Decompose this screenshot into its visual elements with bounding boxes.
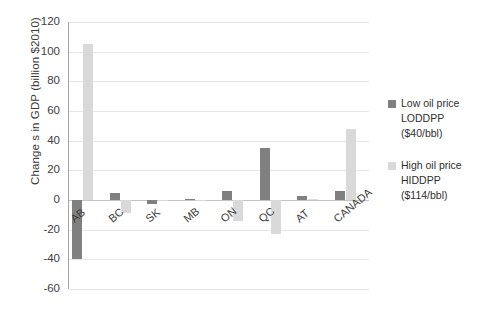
bar-chart: Change s in GDP (billion $2010) 12010080…	[0, 0, 492, 320]
legend-label-line: HIDDPP	[388, 173, 492, 188]
y-axis-tick-label: -60	[26, 283, 60, 295]
legend-row: High oil price	[388, 158, 492, 173]
legend-label-line: ($114/bbl)	[388, 188, 492, 203]
legend-swatch-icon	[388, 162, 396, 170]
x-axis-category-label: AT	[293, 207, 311, 225]
legend-row: Low oil price	[388, 96, 492, 111]
legend-entry[interactable]: High oil priceHIDDPP($114/bbl)	[388, 158, 492, 204]
x-axis-category-label: MB	[181, 205, 201, 225]
y-axis-tick-label: 80	[26, 75, 60, 87]
legend-label-line: Low oil price	[401, 97, 459, 109]
y-axis-tick-label: 120	[26, 16, 60, 28]
y-axis-tick-label: 0	[26, 194, 60, 206]
legend-entry[interactable]: Low oil priceLODDPP($40/bbl)	[388, 96, 492, 142]
chart-legend: Low oil priceLODDPP($40/bbl)High oil pri…	[388, 96, 492, 219]
x-axis-category-label: SK	[143, 206, 162, 225]
y-axis-tick-labels: 120100806040200-20-40-60	[26, 0, 60, 320]
x-axis-category-label: ON	[218, 205, 238, 225]
x-axis-category-label: QC	[256, 205, 276, 225]
y-axis-tick-label: -40	[26, 253, 60, 265]
y-axis-tick-label: 40	[26, 135, 60, 147]
x-axis-category-label: AB	[68, 206, 87, 225]
y-axis-tick-label: 20	[26, 164, 60, 176]
legend-label-line: ($40/bbl)	[388, 126, 492, 141]
x-axis-category-label: BC	[106, 206, 125, 225]
x-axis-category-label: CANADA	[331, 186, 374, 225]
legend-label-line: High oil price	[401, 159, 462, 171]
y-axis-tick-label: -20	[26, 224, 60, 236]
legend-label-line: LODDPP	[388, 111, 492, 126]
legend-swatch-icon	[388, 100, 396, 108]
x-axis-category-labels: ABBCSKMBONQCATCANADA	[68, 0, 388, 320]
y-axis-tick-label: 60	[26, 105, 60, 117]
y-axis-tick-label: 100	[26, 46, 60, 58]
